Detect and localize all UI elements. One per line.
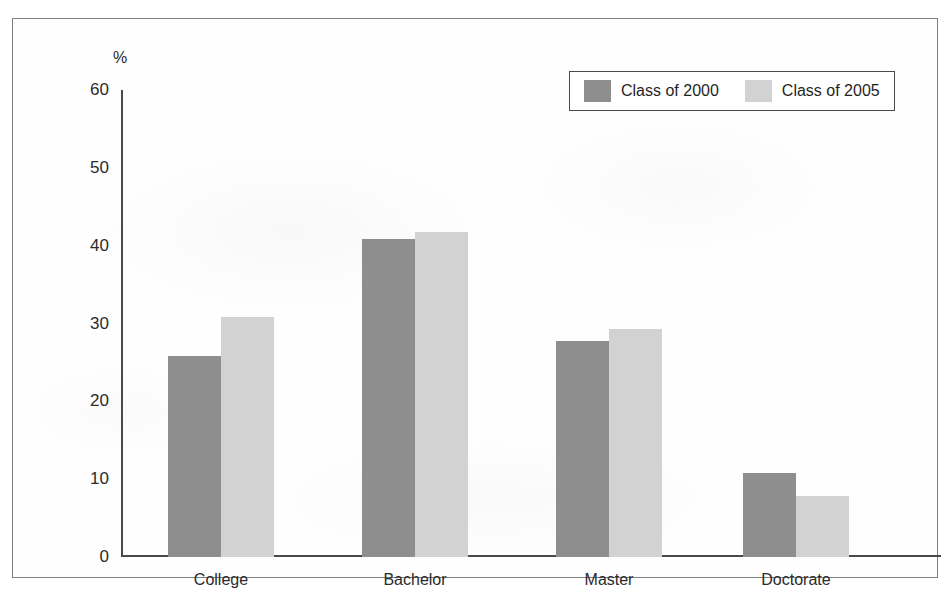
bar	[168, 356, 221, 557]
cropped-title-text	[0, 0, 951, 6]
y-axis-tick-label: 40	[90, 236, 109, 256]
legend-color-swatch	[584, 80, 611, 102]
y-axis-tick-label: 50	[90, 158, 109, 178]
bar-group: Master	[556, 90, 662, 557]
bar-group: Bachelor	[362, 90, 468, 557]
x-axis-category-label: Doctorate	[743, 571, 849, 589]
legend-color-swatch	[745, 80, 772, 102]
legend-item: Class of 2000	[584, 80, 719, 102]
y-axis-tick-label: 0	[100, 547, 109, 567]
bar	[362, 239, 415, 557]
y-axis-tick-label: 30	[90, 314, 109, 334]
x-axis-category-label: College	[168, 571, 274, 589]
x-axis-category-label: Bachelor	[362, 571, 468, 589]
chart-legend: Class of 2000Class of 2005	[569, 71, 895, 111]
x-axis-category-label: Master	[556, 571, 662, 589]
bar	[556, 341, 609, 557]
y-axis-tick-label: 60	[90, 80, 109, 100]
chart-frame: % 0102030405060 CollegeBachelorMasterDoc…	[12, 18, 938, 578]
bar	[609, 329, 662, 557]
y-axis-unit-label: %	[113, 49, 127, 67]
bar	[415, 232, 468, 557]
plot-area: 0102030405060 CollegeBachelorMasterDocto…	[121, 90, 941, 557]
y-axis-tick-label: 20	[90, 391, 109, 411]
bar	[796, 496, 849, 557]
legend-label: Class of 2000	[621, 82, 719, 100]
legend-item: Class of 2005	[745, 80, 880, 102]
y-axis-tick-label: 10	[90, 469, 109, 489]
bar-group: Doctorate	[743, 90, 849, 557]
bar-group: College	[168, 90, 274, 557]
y-axis-line	[121, 90, 123, 557]
bar	[221, 317, 274, 557]
legend-label: Class of 2005	[782, 82, 880, 100]
bar	[743, 473, 796, 557]
